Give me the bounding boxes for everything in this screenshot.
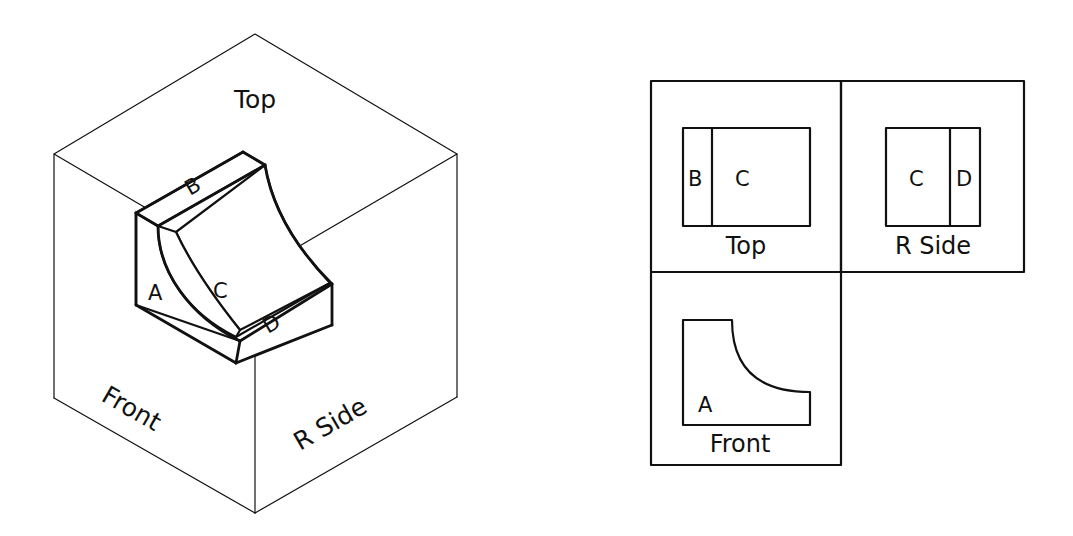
ortho-front-view: A Front (683, 320, 810, 458)
front-view-title: Front (710, 430, 771, 458)
ortho-top-view: B C Top (683, 128, 810, 260)
iso-cube-label-top: Top (233, 85, 276, 114)
rside-view-label-c: C (909, 167, 924, 191)
front-view-label-a: A (698, 393, 713, 417)
ortho-projection-group: B C Top C D R Side A Front (651, 81, 1024, 465)
iso-label-c: C (213, 279, 228, 303)
isometric-figure: A B C D Top Front R Side B C Top (0, 0, 1073, 536)
rside-view-label-d: D (956, 167, 972, 191)
ortho-rside-view: C D R Side (886, 128, 980, 260)
rside-view-title: R Side (895, 232, 971, 260)
iso-label-a: A (148, 281, 163, 305)
isometric-part: A B C D (136, 152, 332, 363)
top-view-label-c: C (735, 167, 750, 191)
top-view-label-b: B (688, 167, 702, 191)
drawing-canvas: A B C D Top Front R Side B C Top (0, 0, 1073, 536)
iso-cube-label-rside: R Side (289, 391, 372, 456)
top-view-title: Top (725, 232, 767, 260)
